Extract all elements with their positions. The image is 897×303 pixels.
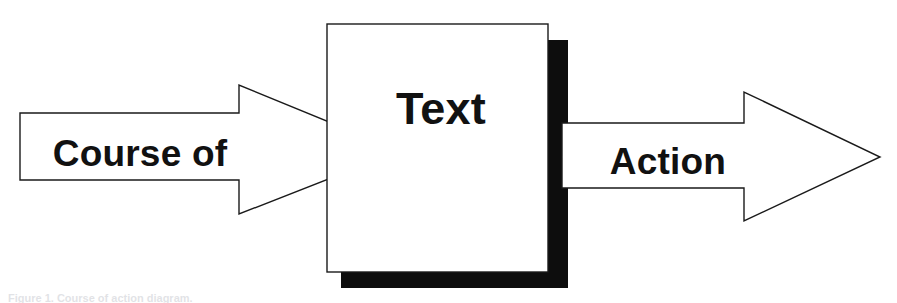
process-box-shape[interactable]	[327, 24, 548, 272]
figure-caption: Figure 1. Course of action diagram.	[8, 292, 888, 303]
process-box-shadow-bottom	[341, 272, 568, 288]
input-arrow-label: Course of	[53, 133, 228, 174]
output-arrow-label: Action	[610, 141, 726, 182]
process-box-label: Text	[396, 83, 486, 134]
diagram-svg: Course of Text Action	[0, 0, 897, 303]
process-box-group[interactable]: Text	[327, 24, 548, 272]
output-arrow-group[interactable]: Action	[562, 92, 880, 221]
figure-canvas: Course of Text Action Figure 1. Course o…	[0, 0, 897, 303]
